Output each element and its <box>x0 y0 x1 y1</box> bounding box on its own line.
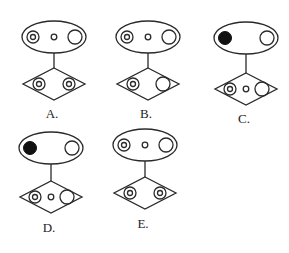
inner-ring <box>228 87 233 92</box>
outer-ring <box>121 31 133 43</box>
outer-ring <box>124 187 136 199</box>
double-circle-icon <box>27 31 39 43</box>
small-circle-icon <box>145 34 151 40</box>
figure-option-a: A. <box>22 21 86 121</box>
outer-ring <box>127 78 139 90</box>
outer-ring <box>29 191 41 203</box>
figure-option-c: C. <box>214 22 278 126</box>
ellipse-shape <box>113 129 177 161</box>
outer-ring <box>33 78 45 90</box>
large-circle-icon <box>65 141 79 155</box>
figure-option-b: B. <box>116 21 180 121</box>
double-circle-icon <box>154 187 166 199</box>
inner-ring <box>33 195 38 200</box>
option-label: C. <box>238 111 250 126</box>
inner-ring <box>158 191 163 196</box>
double-circle-icon <box>118 139 130 151</box>
figure-option-e: E. <box>113 129 177 231</box>
double-circle-icon <box>63 78 75 90</box>
filled-circle-icon <box>24 142 37 155</box>
small-circle-icon <box>243 86 249 92</box>
inner-ring <box>37 82 42 87</box>
double-circle-icon <box>127 78 139 90</box>
outer-ring <box>27 31 39 43</box>
filled-circle-icon <box>219 32 232 45</box>
inner-ring <box>122 143 127 148</box>
double-circle-icon <box>224 83 236 95</box>
outer-ring <box>63 78 75 90</box>
double-circle-icon <box>124 187 136 199</box>
outer-ring <box>224 83 236 95</box>
large-circle-icon <box>159 138 173 152</box>
option-label: A. <box>46 106 59 121</box>
large-circle-icon <box>156 77 170 91</box>
options-diagram: A.B.C.D.E. <box>0 0 289 253</box>
outer-ring <box>118 139 130 151</box>
double-circle-icon <box>29 191 41 203</box>
diamond-shape <box>114 177 176 209</box>
inner-ring <box>128 191 133 196</box>
figure-option-d: D. <box>19 132 83 235</box>
ellipse-shape <box>22 21 86 53</box>
small-circle-icon <box>51 34 57 40</box>
large-circle-icon <box>68 30 82 44</box>
small-circle-icon <box>142 142 148 148</box>
inner-ring <box>125 35 130 40</box>
double-circle-icon <box>33 78 45 90</box>
outer-ring <box>154 187 166 199</box>
large-circle-icon <box>260 31 274 45</box>
inner-ring <box>131 82 136 87</box>
large-circle-icon <box>162 30 176 44</box>
option-label: E. <box>137 216 148 231</box>
ellipse-shape <box>116 21 180 53</box>
option-label: D. <box>43 220 56 235</box>
double-circle-icon <box>121 31 133 43</box>
large-circle-icon <box>255 82 269 96</box>
large-circle-icon <box>60 190 74 204</box>
inner-ring <box>67 82 72 87</box>
inner-ring <box>31 35 36 40</box>
small-circle-icon <box>48 194 54 200</box>
diamond-shape <box>23 68 85 100</box>
option-label: B. <box>140 106 152 121</box>
